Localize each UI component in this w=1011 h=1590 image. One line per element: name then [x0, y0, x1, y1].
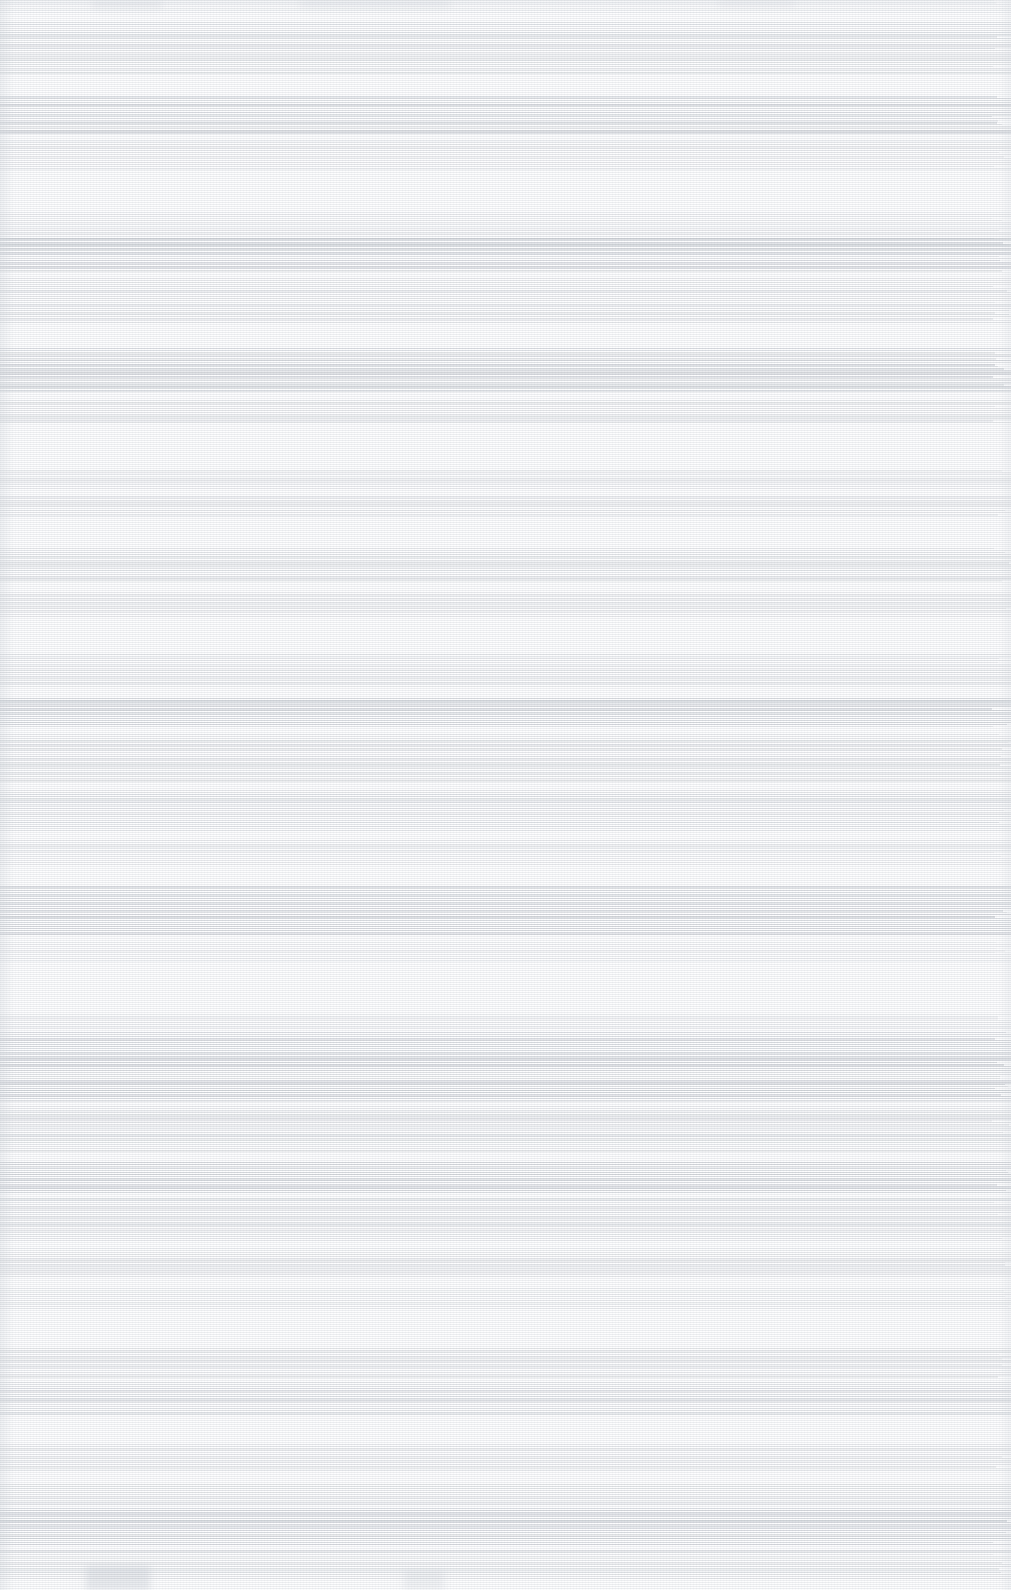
scan-line: [0, 934, 1011, 935]
scan-line: [0, 4, 1011, 5]
text-line-block: [0, 1248, 1011, 1278]
scan-line: [0, 1236, 1011, 1237]
scan-line: [0, 912, 1007, 913]
scan-line: [0, 1304, 1011, 1305]
scan-line: [0, 1498, 1011, 1499]
scan-line: [0, 1192, 1011, 1193]
text-line-block: [0, 238, 1011, 272]
scan-line: [0, 710, 1011, 711]
scan-line: [0, 662, 998, 663]
text-line-block: [0, 0, 1011, 14]
scan-line: [0, 1462, 1011, 1463]
scan-line: [0, 900, 1011, 901]
scan-line: [0, 840, 1011, 841]
scan-line: [0, 38, 1011, 39]
scan-line: [0, 918, 1011, 919]
scan-line: [0, 144, 1011, 145]
scan-line: [0, 1132, 1003, 1133]
scan-line: [0, 1262, 1005, 1263]
text-line-block: [0, 496, 1011, 518]
scan-line: [0, 288, 1011, 289]
scan-line: [0, 890, 1011, 891]
scan-line: [0, 1516, 1011, 1517]
text-line-block: [0, 278, 1011, 324]
scan-line: [0, 42, 1011, 43]
text-line-block: [0, 140, 1011, 170]
scan-line: [0, 1072, 1011, 1073]
scan-line: [0, 946, 1011, 947]
scan-line: [0, 1212, 1011, 1213]
scan-line: [0, 380, 1011, 381]
scan-line: [0, 302, 995, 303]
scan-line: [0, 796, 1011, 797]
scan-line: [0, 1256, 1011, 1257]
scan-line: [0, 1402, 1011, 1403]
scan-line: [0, 1536, 1011, 1537]
scan-line: [0, 1294, 1011, 1295]
scan-line: [0, 1140, 1011, 1141]
scan-line: [0, 830, 1011, 831]
scan-line: [0, 390, 1011, 392]
scan-line: [0, 406, 995, 407]
scan-line: [0, 1044, 1011, 1045]
scan-line: [0, 848, 1011, 849]
scan-line: [0, 24, 1011, 25]
scan-line: [0, 860, 1011, 861]
scan-line: [0, 412, 1011, 413]
scan-line: [0, 734, 999, 735]
scan-line: [0, 1096, 1011, 1097]
scan-line: [0, 1510, 1011, 1511]
scan-line: [0, 112, 1011, 113]
scan-line: [0, 1028, 1011, 1029]
scan-line: [0, 1494, 1011, 1495]
text-line-block: [0, 654, 1011, 688]
scan-line: [0, 100, 1011, 101]
scan-line: [0, 914, 1011, 915]
scan-line: [0, 108, 1011, 109]
scan-line: [0, 1354, 999, 1355]
scan-line: [0, 62, 1011, 63]
text-line-block: [0, 548, 1011, 582]
scan-line: [0, 558, 1011, 559]
scan-line: [0, 1182, 1011, 1183]
scan-line: [0, 1574, 1011, 1575]
scan-line: [0, 72, 1011, 74]
scan-line: [0, 64, 1011, 65]
scan-line: [0, 1452, 1011, 1453]
scan-line: [0, 716, 1011, 717]
scan-line: [0, 1554, 993, 1555]
scan-line: [0, 930, 1011, 931]
scan-line: [0, 1306, 1008, 1307]
scan-line: [0, 596, 1011, 597]
scan-line: [0, 952, 995, 953]
scan-line: [0, 1136, 1011, 1137]
scan-line: [0, 1014, 1011, 1015]
scan-line: [0, 1544, 1011, 1545]
scan-line: [0, 824, 1011, 825]
scan-line: [0, 1386, 1011, 1387]
scan-line: [0, 1370, 1011, 1371]
text-line-block: [0, 1014, 1011, 1030]
scan-line: [0, 1368, 1011, 1369]
scan-line: [0, 820, 1011, 821]
scan-line: [0, 1566, 1011, 1567]
scan-line: [0, 1024, 1011, 1025]
scan-line: [0, 828, 1011, 829]
scan-line: [0, 768, 1011, 769]
scan-line: [0, 1252, 1011, 1253]
text-line-block: [0, 1508, 1011, 1546]
scan-line: [0, 1372, 1011, 1373]
scan-line: [0, 508, 1011, 509]
scan-line: [0, 742, 1008, 743]
scan-line: [0, 794, 1011, 795]
scan-line: [0, 818, 1011, 819]
scan-line: [0, 862, 1011, 863]
scan-line: [0, 284, 1011, 285]
scan-line: [0, 216, 1011, 217]
scan-line: [0, 1522, 1011, 1523]
text-line-block: [0, 96, 1011, 134]
scan-line: [0, 666, 1011, 667]
scan-line: [0, 658, 999, 659]
scan-line: [0, 148, 1011, 149]
scan-line: [0, 154, 1011, 155]
